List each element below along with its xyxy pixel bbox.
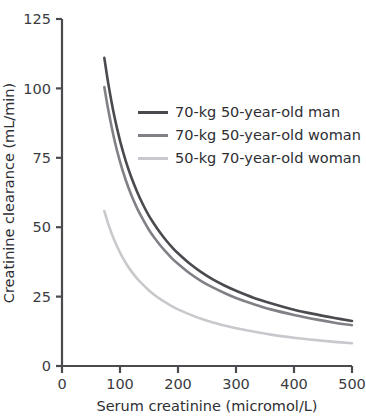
x-tick-label: 200 xyxy=(164,376,192,392)
legend-color-swatch xyxy=(138,134,168,137)
series-lines xyxy=(104,58,352,343)
series-line-1 xyxy=(104,87,352,325)
y-axis-tick-labels: 0255075100125 xyxy=(23,11,51,374)
y-tick-label: 50 xyxy=(33,219,51,235)
y-tick-label: 25 xyxy=(33,289,51,305)
legend-color-swatch xyxy=(138,157,168,160)
legend-item-0: 70-kg 50-year-old man xyxy=(138,103,340,121)
legend-item-label: 50-kg 70-year-old woman xyxy=(175,151,361,166)
x-axis-tick-labels: 0100200300400500 xyxy=(57,376,365,392)
legend-item-label: 70-kg 50-year-old woman xyxy=(175,128,361,143)
legend-color-swatch xyxy=(138,111,168,114)
y-tick-label: 125 xyxy=(23,11,51,27)
y-tick-label: 0 xyxy=(42,358,51,374)
x-tick-label: 400 xyxy=(280,376,308,392)
legend-item-2: 50-kg 70-year-old woman xyxy=(138,149,361,167)
y-tick-label: 100 xyxy=(23,81,51,97)
series-line-2 xyxy=(104,211,352,343)
chart-figure: 0255075100125 0100200300400500 Serum cre… xyxy=(0,0,366,418)
y-tick-label: 75 xyxy=(33,150,51,166)
legend-item-1: 70-kg 50-year-old woman xyxy=(138,126,361,144)
x-tick-label: 0 xyxy=(57,376,66,392)
x-tick-label: 100 xyxy=(106,376,134,392)
x-axis-title: Serum creatinine (micromol/L) xyxy=(96,398,317,414)
chart-canvas: 0255075100125 0100200300400500 Serum cre… xyxy=(0,0,366,418)
x-tick-label: 500 xyxy=(338,376,366,392)
legend-item-label: 70-kg 50-year-old man xyxy=(175,105,340,120)
x-tick-label: 300 xyxy=(222,376,250,392)
y-axis-title: Creatinine clearance (mL/min) xyxy=(1,83,17,303)
